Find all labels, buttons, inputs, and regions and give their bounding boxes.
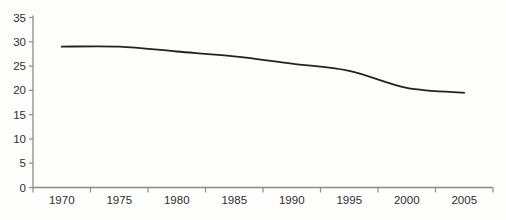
x-axis-tick-label: 1995	[336, 194, 362, 206]
x-axis-tick-label: 2005	[451, 194, 477, 206]
y-axis-tick-label: 5	[20, 157, 26, 169]
x-axis-tick-label: 2000	[394, 194, 420, 206]
x-axis-tick-label: 1990	[279, 194, 305, 206]
line-chart: 0510152025303519701975198019851990199520…	[0, 0, 506, 220]
y-axis-tick-label: 30	[13, 36, 26, 48]
data-line-series	[62, 46, 465, 93]
y-axis-tick-label: 25	[13, 60, 26, 72]
x-axis-tick-label: 1975	[106, 194, 132, 206]
x-axis-tick-label: 1985	[221, 194, 247, 206]
y-axis-tick-label: 10	[13, 133, 26, 145]
y-axis-tick-label: 20	[13, 84, 26, 96]
line-chart-plot-area: 0510152025303519701975198019851990199520…	[0, 0, 506, 220]
x-axis-tick-label: 1980	[164, 194, 190, 206]
y-axis-tick-label: 15	[13, 109, 26, 121]
y-axis-tick-label: 0	[20, 182, 26, 194]
y-axis-tick-label: 35	[13, 12, 26, 24]
x-axis-tick-label: 1970	[49, 194, 75, 206]
